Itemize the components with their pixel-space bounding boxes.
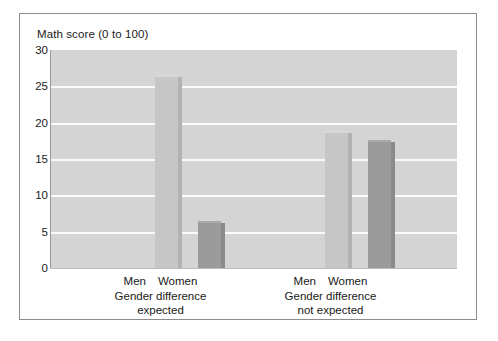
series-label-row-group2: Men Women (248, 274, 413, 288)
group1-caption-line2: expected (78, 303, 243, 317)
y-tick-30: 30 (22, 44, 48, 56)
y-tick-0: 0 (22, 262, 48, 274)
series-label-women-group2: Women (328, 274, 367, 288)
y-axis-title: Math score (0 to 100) (37, 28, 148, 40)
bar-side (178, 77, 182, 268)
gridline-20 (50, 123, 457, 125)
y-axis-tick-labels: 30 25 20 15 10 5 0 (20, 14, 48, 321)
series-label-men-group1: Men (124, 274, 146, 288)
x-group-label-1: Men Women Gender difference expected (78, 274, 243, 317)
bar-men-group2 (325, 133, 348, 268)
bar-face (155, 77, 178, 268)
bar-face (325, 133, 348, 268)
gridline-10 (50, 195, 457, 197)
series-label-row-group1: Men Women (78, 274, 243, 288)
bar-side (221, 223, 225, 268)
group2-caption-line1: Gender difference (248, 289, 413, 303)
y-tick-20: 20 (22, 117, 48, 129)
bar-women-group2 (368, 142, 391, 268)
bar-face (198, 223, 221, 268)
y-tick-25: 25 (22, 80, 48, 92)
x-group-label-2: Men Women Gender difference not expected (248, 274, 413, 317)
bar-men-group1 (155, 77, 178, 268)
y-axis-line (50, 50, 51, 269)
series-label-women-group1: Women (158, 274, 197, 288)
y-tick-10: 10 (22, 189, 48, 201)
group1-caption-line1: Gender difference (78, 289, 243, 303)
plot-area (50, 50, 457, 268)
bar-face (368, 142, 391, 268)
chart-figure-frame: Math score (0 to 100) (19, 13, 477, 320)
bar-women-group1 (198, 223, 221, 268)
bar-side (391, 142, 395, 268)
gridline-15 (50, 159, 457, 161)
y-tick-15: 15 (22, 153, 48, 165)
gridline-5 (50, 232, 457, 234)
y-tick-5: 5 (22, 226, 48, 238)
gridline-25 (50, 86, 457, 88)
bar-side (348, 133, 352, 268)
x-axis-baseline (50, 268, 457, 269)
group2-caption-line2: not expected (248, 303, 413, 317)
series-label-men-group2: Men (294, 274, 316, 288)
